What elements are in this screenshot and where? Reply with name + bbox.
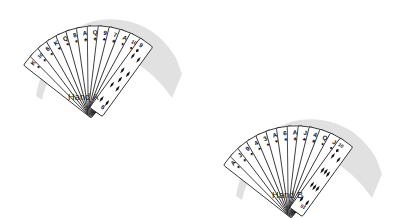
hand-b-label: Hand B (272, 190, 303, 200)
hand-a-fan: K♠10♠6♠K♥Q♥8♥A♣Q♣9♣7♣A♦10♦99 (0, 0, 210, 120)
hand-b-fan: A♠J♠9♠4♠3♠A♥6♥A♣J♣4♣Q♦J♦1010 (200, 100, 409, 218)
hand-a-label: Hand A (68, 92, 99, 102)
card-hands-figure: K♠10♠6♠K♥Q♥8♥A♣Q♣9♣7♣A♦10♦99 A♠J♠9♠4♠3♠A… (0, 0, 409, 218)
